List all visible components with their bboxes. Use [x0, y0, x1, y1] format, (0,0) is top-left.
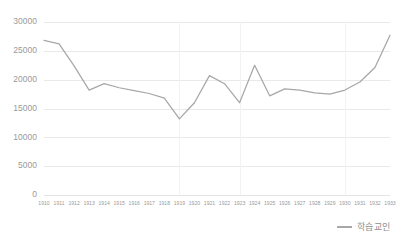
legend-label: 학습교인 [357, 220, 390, 233]
x-axis-tick-label: 1919 [174, 200, 185, 206]
y-axis-tick-label: 30000 [13, 16, 37, 26]
y-axis-tick-label: 25000 [13, 45, 37, 55]
x-axis-tick-label: 1911 [54, 200, 65, 206]
x-axis-tick-label: 1926 [279, 200, 290, 206]
x-axis-tick-labels: 1910191119121913191419151916191719181919… [38, 200, 395, 206]
y-axis-tick-label: 5000 [18, 160, 37, 170]
x-axis-tick-label: 1915 [114, 200, 125, 206]
x-axis-tick-label: 1927 [294, 200, 305, 206]
x-axis-tick-label: 1912 [68, 200, 79, 206]
x-axis-tick-label: 1924 [249, 200, 260, 206]
x-axis-tick-label: 1932 [369, 200, 380, 206]
y-axis-tick-label: 20000 [13, 74, 37, 84]
x-axis-tick-label: 1922 [219, 200, 230, 206]
x-axis-tick-label: 1914 [99, 200, 110, 206]
x-axis-tick-label: 1921 [204, 200, 215, 206]
horizontal-gridlines [44, 23, 390, 196]
x-axis-tick-label: 1933 [384, 200, 395, 206]
series-line [44, 35, 390, 119]
x-axis-tick-label: 1929 [324, 200, 335, 206]
x-axis-tick-label: 1925 [264, 200, 275, 206]
x-axis-tick-label: 1913 [83, 200, 94, 206]
y-axis-tick-label: 10000 [13, 132, 37, 142]
chart-legend: 학습교인 [337, 220, 390, 233]
line-chart: 050001000015000200002500030000 191019111… [0, 0, 398, 237]
x-axis-tick-label: 1931 [354, 200, 365, 206]
y-axis-tick-label: 0 [32, 189, 37, 199]
x-axis-tick-label: 1917 [144, 200, 155, 206]
chart-plot-area: 050001000015000200002500030000 191019111… [0, 0, 398, 237]
y-axis-tick-labels: 050001000015000200002500030000 [13, 16, 37, 199]
y-axis-tick-label: 15000 [13, 103, 37, 113]
x-axis-tick-label: 1910 [38, 200, 49, 206]
x-axis-tick-label: 1930 [339, 200, 350, 206]
x-axis-tick-label: 1920 [189, 200, 200, 206]
data-series-group [44, 35, 390, 119]
x-axis-tick-label: 1923 [234, 200, 245, 206]
legend-swatch-line [337, 226, 352, 228]
x-axis-tick-label: 1928 [309, 200, 320, 206]
vertical-gridlines [180, 22, 346, 195]
x-axis-tick-label: 1916 [129, 200, 140, 206]
x-axis-tick-label: 1918 [159, 200, 170, 206]
